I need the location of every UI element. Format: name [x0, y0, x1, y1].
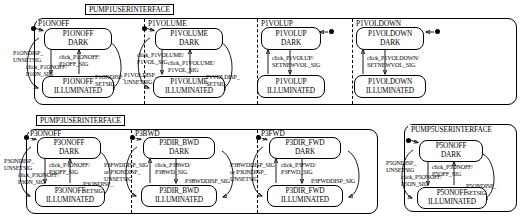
tl1: P1ONDISP_: [13, 50, 43, 57]
tl1: P1VOLDISP_: [206, 74, 240, 81]
tl1: P3ONDISP_: [4, 158, 34, 165]
state-p5onoff-dark[interactable]: P5ONOFF DARK: [419, 140, 483, 162]
state-line2: ILLUMINATED: [281, 196, 329, 205]
tl2: UNSETSIG: [13, 57, 43, 64]
tl2: UNSETSIG: [124, 79, 158, 86]
tl2: P3FWD_SIG: [281, 169, 316, 176]
subregion-label-p1volume: P1VOLUME: [147, 20, 188, 28]
tl2: or P3ONDISP_: [230, 169, 275, 176]
tl2: P3BWD_SIG: [155, 169, 190, 176]
transition-label-click-p3onoff-off: click_P3ONOFF/ P3OFF_SIG: [49, 162, 90, 176]
transition-label-p5ondisp-setsig: P5ONDISP_ SETSIG: [466, 183, 496, 197]
state-line2: DARK: [380, 39, 400, 48]
state-line2: ILLUMINATED: [366, 87, 414, 96]
region-title-pump5userinterface: PUMP5USERINTERFACE: [408, 125, 495, 134]
transition-label-p1voldisp-unsetsig: P1VOLDISP_ UNSETSIG: [124, 72, 158, 86]
state-p3dir-bwd-dark[interactable]: P3DIR_BWD DARK: [143, 137, 215, 159]
state-p1onoff-dark[interactable]: P1ONOFF DARK: [44, 28, 112, 50]
state-line2: DARK: [281, 39, 301, 48]
tl3: UNSETSIG: [230, 176, 275, 183]
tl2: SETSIG: [83, 188, 113, 195]
tl2: SETNEWVOL_SIG: [367, 62, 419, 69]
tl2: SETSIG: [466, 190, 496, 197]
state-p1volup-illuminated[interactable]: P1VOLUP ILLUMINATED: [257, 75, 325, 98]
state-p1volup-dark[interactable]: P1VOLUP DARK: [261, 27, 321, 50]
transition-label-p3fwddisp-sig: P3FWDDISP_SIG: [311, 178, 355, 185]
state-line2: ILLUMINATED: [165, 87, 213, 96]
tl2: P1OFF_SIG: [59, 61, 100, 68]
state-line2: ILLUMINATED: [428, 198, 476, 207]
transition-label-p5ondisp-unsetsig: P5ONDISP_ UNSETSIG: [386, 160, 416, 174]
state-p1volume-dark[interactable]: P1VOLUME DARK: [155, 28, 223, 50]
state-p3onoff-dark[interactable]: P3ONOFF DARK: [37, 137, 101, 159]
state-line2: DARK: [59, 148, 79, 157]
tl2: P1VOL_SIG: [168, 67, 215, 74]
tl1: P3FWDDISP_SIG: [104, 162, 148, 169]
transition-label-p1ondisp-setsig: P1ONDISP_ SETSIG: [95, 74, 125, 88]
tl1: click_P1VOLUME/: [168, 60, 215, 67]
transition-label-p1ondisp-unsetsig: P1ONDISP_ UNSETSIG: [13, 50, 43, 64]
state-line2: DARK: [68, 39, 88, 48]
transition-label-p3ondisp-unsetsig: P3ONDISP_ UNSETSIG: [4, 158, 34, 172]
tl2: P3ON_SIG: [18, 179, 59, 186]
transition-label-click-p1onoff-off: click_P1ONOFF/ P1OFF_SIG: [59, 54, 100, 68]
tl2: or P3ONDISP_: [104, 169, 148, 176]
tl1: click_P1VOLUP/: [272, 55, 320, 62]
tl2: UNSETSIG: [386, 167, 416, 174]
tl2: P5OFF_SIG: [432, 171, 473, 178]
tl3: UNSETSIG: [104, 176, 148, 183]
tl1: click_P1VOLUME/: [137, 52, 184, 59]
state-p3dir-bwd-illuminated[interactable]: P3DIR_BWD ILLUMINATED: [141, 185, 217, 207]
tl2: P1ON_SIG: [26, 71, 67, 78]
tl2: SETSIG: [206, 81, 240, 88]
state-line2: ILLUMINATED: [54, 87, 102, 96]
transition-label-p3bwddisp-sig: P3BWDDISP_SIG: [185, 178, 230, 185]
tl1: P5ONDISP_: [386, 160, 416, 167]
state-p3dir-fwd-dark[interactable]: P3DIR_FWD DARK: [269, 137, 341, 159]
state-line2: DARK: [441, 151, 461, 160]
transition-label-click-p3fwd: click_P3FWD/ P3FWD_SIG: [281, 162, 316, 176]
statechart-diagram: PUMP1USERINTERFACE P1ONOFF P1VOLUME P1VO…: [0, 0, 521, 224]
state-p1voldown-illuminated[interactable]: P1VOLDOWN ILLUMINATED: [354, 75, 426, 98]
subregion-divider: [352, 19, 353, 104]
tl2: SETNEWVOL_SIG: [272, 62, 320, 69]
region-title-pump1userinterface: PUMP1USERINTERFACE: [85, 4, 174, 15]
tl2: P5ON_SIG: [401, 181, 442, 188]
state-p3dir-fwd-illuminated[interactable]: P3DIR_FWD ILLUMINATED: [267, 185, 343, 207]
tl1: P3BWDDISP_SIG: [230, 162, 275, 169]
tl1: P1ONDISP_: [95, 74, 125, 81]
transition-label-click-p3bwd: click_P3BWD/ P3BWD_SIG: [155, 162, 190, 176]
tl1: click_P1ONOFF/: [59, 54, 100, 61]
transition-label-p3bwddisp-or-p3ondisp: P3BWDDISP_SIG or P3ONDISP_ UNSETSIG: [230, 162, 275, 183]
tl1: click_P3FWD/: [281, 162, 316, 169]
tl1: P3FWDDISP_SIG: [311, 178, 355, 185]
transition-label-p1voldisp-setsig: P1VOLDISP_ SETSIG: [206, 74, 240, 88]
state-line2: ILLUMINATED: [267, 87, 315, 96]
tl1: P5ONDISP_: [466, 183, 496, 190]
state-line2: DARK: [169, 148, 189, 157]
state-line2: DARK: [179, 39, 199, 48]
tl1: click_P3BWD/: [155, 162, 190, 169]
state-p1voldown-dark[interactable]: P1VOLDOWN DARK: [356, 27, 424, 50]
subregion-label-p1onoff: P1ONOFF: [37, 20, 70, 28]
transition-label-click-p5onoff-off: click_P5ONOFF/ P5OFF_SIG: [432, 164, 473, 178]
tl2: UNSETSIG: [4, 165, 34, 172]
transition-label-p3fwddisp-or-p3ondisp: P3FWDDISP_SIG or P3ONDISP_ UNSETSIG: [104, 162, 148, 183]
tl1: P3BWDDISP_SIG: [185, 178, 230, 185]
transition-label-p3ondisp-setsig: P3ONDISP_ SETSIG: [83, 181, 113, 195]
tl1: click_P3ONOFF/: [49, 162, 90, 169]
tl2: P3OFF_SIG: [49, 169, 90, 176]
tl1: click_P5ONOFF/: [432, 164, 473, 171]
region-title-pump3userinterface: PUMP3USERINTERFACE: [36, 115, 125, 126]
state-line2: ILLUMINATED: [155, 196, 203, 205]
tl1: click_P1VOLDOWN/: [367, 55, 419, 62]
tl1: P1VOLDISP_: [124, 72, 158, 79]
state-line2: ILLUMINATED: [46, 196, 94, 205]
transition-label-click-p1volume-b: click_P1VOLUME/ P1VOL_SIG: [168, 60, 215, 74]
tl2: SETSIG: [95, 81, 125, 88]
transition-label-click-p1volup: click_P1VOLUP/ SETNEWVOL_SIG: [272, 55, 320, 69]
transition-label-click-p1voldown: click_P1VOLDOWN/ SETNEWVOL_SIG: [367, 55, 419, 69]
state-line2: DARK: [295, 148, 315, 157]
